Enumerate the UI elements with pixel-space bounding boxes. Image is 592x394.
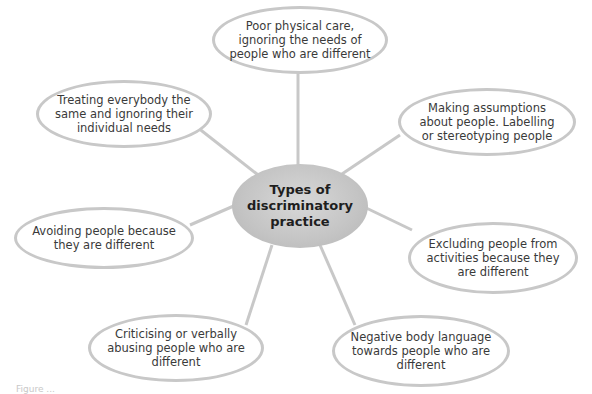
node-treating-everybody-same: Treating everybody the same and ignoring… (36, 80, 212, 148)
central-topic: Types of discriminatory practice (232, 164, 368, 248)
figure-caption: Figure ... (16, 384, 55, 394)
connector-upper-right (336, 135, 400, 178)
node-label: Excluding people from activities because… (425, 237, 561, 279)
node-avoiding-people: Avoiding people because they are differe… (14, 207, 194, 269)
node-criticising-abusing: Criticising or verbally abusing people w… (88, 314, 264, 382)
central-topic-label: Types of discriminatory practice (245, 182, 355, 230)
node-label: Poor physical care, ignoring the needs o… (229, 19, 371, 61)
node-label: Avoiding people because they are differe… (31, 224, 177, 252)
node-excluding-people: Excluding people from activities because… (408, 222, 578, 294)
connector-lower-right (320, 245, 355, 325)
node-label: Making assumptions about people. Labelli… (415, 101, 559, 143)
connector-left (190, 205, 236, 225)
node-label: Negative body language towards people wh… (349, 330, 493, 372)
node-label: Criticising or verbally abusing people w… (105, 327, 247, 369)
node-making-assumptions: Making assumptions about people. Labelli… (398, 88, 576, 156)
node-poor-physical-care: Poor physical care, ignoring the needs o… (212, 6, 388, 74)
node-negative-body-language: Negative body language towards people wh… (332, 315, 510, 387)
node-label: Treating everybody the same and ignoring… (53, 93, 195, 135)
connector-lower-left (246, 245, 272, 325)
